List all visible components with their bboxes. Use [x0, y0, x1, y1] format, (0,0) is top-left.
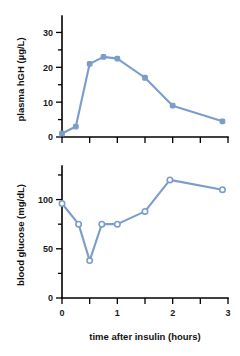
y-tick-label-top-4: 20	[43, 63, 53, 73]
data-point-bottom-2	[87, 258, 92, 263]
data-point-top-2	[87, 62, 92, 67]
data-point-top-0	[60, 131, 65, 136]
data-point-bottom-6	[167, 177, 172, 182]
y-tick-label-bottom-2: 50	[43, 244, 53, 254]
x-tick-label-bottom-2: 1	[115, 308, 120, 318]
data-point-top-4	[115, 56, 120, 61]
y-tick-label-bottom-0: 0	[48, 293, 53, 303]
data-point-bottom-7	[220, 187, 225, 192]
x-tick-label-bottom-4: 2	[170, 308, 175, 318]
x-tick-label-bottom-0: 0	[59, 308, 64, 318]
data-point-bottom-0	[59, 201, 64, 206]
data-point-top-1	[74, 124, 79, 129]
y-tick-label-top-2: 10	[43, 98, 53, 108]
y-tick-label-bottom-4: 100	[38, 195, 53, 205]
data-point-bottom-3	[99, 221, 104, 226]
data-point-top-5	[143, 75, 148, 80]
data-point-top-7	[220, 119, 225, 124]
data-point-top-6	[170, 103, 175, 108]
panel-top: 0102030plasma hGH (µg/L)	[15, 16, 228, 143]
series-line-bottom-0	[62, 180, 222, 261]
data-point-bottom-4	[115, 221, 120, 226]
y-tick-label-top-0: 0	[48, 132, 53, 142]
x-tick-label-bottom-6: 3	[225, 308, 230, 318]
y-axis-title-bottom: blood glucose (mg/dL)	[15, 184, 26, 286]
data-point-bottom-1	[76, 221, 81, 226]
y-tick-label-top-6: 30	[43, 28, 53, 38]
y-axis-title-top: plasma hGH (µg/L)	[15, 37, 26, 121]
chart-canvas: 0102030plasma hGH (µg/L)0501000123blood …	[0, 0, 240, 356]
x-axis-title: time after insulin (hours)	[89, 331, 200, 342]
data-point-bottom-5	[142, 209, 147, 214]
two-panel-line-chart-figure: 0102030plasma hGH (µg/L)0501000123blood …	[0, 0, 240, 356]
series-line-top-0	[62, 57, 222, 134]
data-point-top-3	[101, 55, 106, 60]
panel-bottom: 0501000123blood glucose (mg/dL)	[15, 166, 231, 318]
